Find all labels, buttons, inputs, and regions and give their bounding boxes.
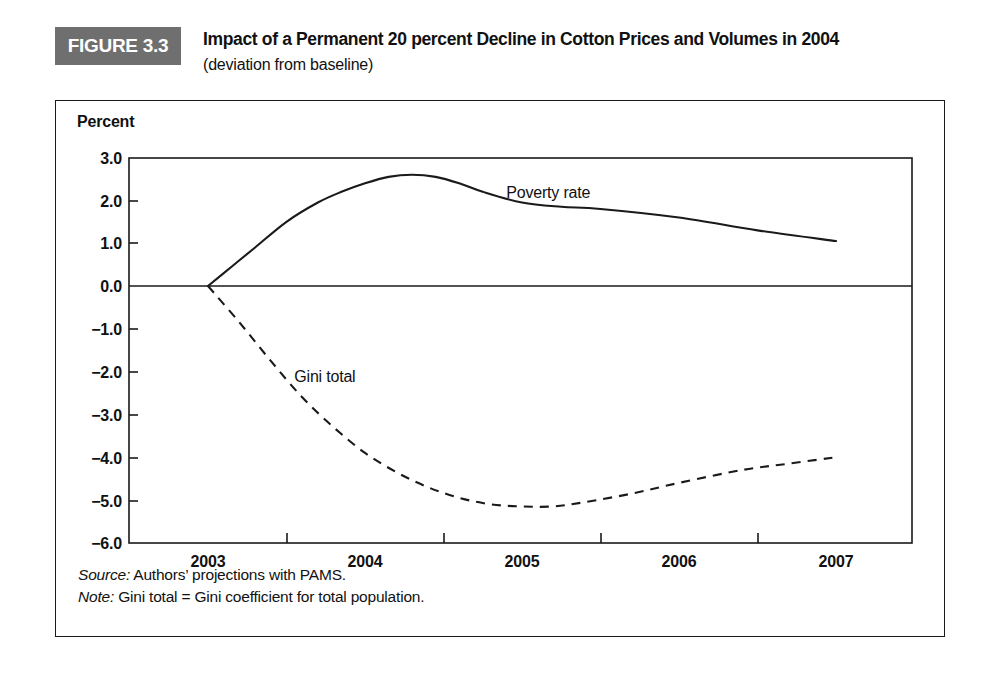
line-chart: 3.0 2.0 1.0 0.0 −1.0 −2.0 −3.0 −4.0 −5.0… [56,101,946,571]
y-tick-label: −2.0 [91,364,122,381]
source-line: Source: Authors’ projections with PAMS. [78,564,918,586]
series-label-gini-total: Gini total [294,368,355,385]
figure-number-badge: FIGURE 3.3 [55,27,181,65]
figure-container: FIGURE 3.3 Impact of a Permanent 20 perc… [0,0,1001,673]
x-axis-ticks [287,533,758,543]
y-tick-label: −6.0 [91,535,122,552]
source-label: Source: [78,566,130,583]
y-tick-label: 1.0 [100,235,122,252]
series-gini-total [208,286,836,507]
note-label: Note: [78,588,114,605]
y-tick-label: −1.0 [91,321,122,338]
chart-frame [129,158,912,543]
y-axis-ticks [129,201,138,501]
figure-border-box: Percent [55,100,945,637]
footnotes: Source: Authors’ projections with PAMS. … [78,564,918,608]
y-tick-label: 3.0 [100,150,122,167]
y-tick-label: −3.0 [91,407,122,424]
source-text: Authors’ projections with PAMS. [130,566,346,583]
y-tick-labels: 3.0 2.0 1.0 0.0 −1.0 −2.0 −3.0 −4.0 −5.0… [91,150,122,552]
y-tick-label: −4.0 [91,450,122,467]
y-tick-label: 0.0 [100,278,122,295]
y-tick-label: 2.0 [100,193,122,210]
series-label-poverty-rate: Poverty rate [506,184,590,201]
y-tick-label: −5.0 [91,493,122,510]
note-text: Gini total = Gini coefficient for total … [114,588,424,605]
figure-subtitle: (deviation from baseline) [203,54,943,75]
figure-title: Impact of a Permanent 20 percent Decline… [203,28,943,50]
note-line: Note: Gini total = Gini coefficient for … [78,586,918,608]
plot-area: Percent [56,101,946,638]
figure-header: FIGURE 3.3 Impact of a Permanent 20 perc… [55,27,945,99]
